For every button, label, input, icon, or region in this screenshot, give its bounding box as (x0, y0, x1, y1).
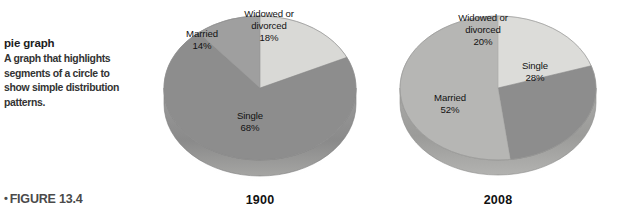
slice-value-single: 68% (218, 122, 282, 134)
slice-label-married: Married 52% (415, 92, 485, 116)
slice-value-single: 28% (503, 72, 567, 84)
glossary-definition-line-4: patterns. (4, 95, 143, 110)
slice-value-married: 14% (170, 40, 234, 52)
bullet-icon: • (4, 192, 8, 204)
slice-label-single: Single 68% (218, 110, 282, 134)
pie-chart-1900-title: 1900 (160, 193, 360, 207)
slice-label-widowed-divorced-line2: divorced (465, 24, 500, 35)
slice-label-single: Single 28% (503, 60, 567, 84)
figure-number-label: •FIGURE 13.4 (4, 192, 82, 206)
glossary-definition-line-2: segments of a circle to (4, 66, 143, 81)
slice-value-widowed-divorced: 18% (226, 32, 312, 44)
figure-number-text: FIGURE 13.4 (10, 192, 83, 206)
slice-value-married: 52% (415, 104, 485, 116)
slice-value-widowed-divorced: 20% (436, 36, 530, 48)
glossary-definition-line-3: show simple distribution (4, 80, 143, 95)
margin-column: pie graph A graph that highlights segmen… (4, 0, 154, 223)
pie-chart-2008: Widowed or divorced 20% Single 28% Marri… (393, 0, 603, 223)
slice-label-widowed-divorced-line2: divorced (251, 20, 286, 31)
slice-label-widowed-divorced: Widowed or divorced 18% (226, 8, 312, 45)
slice-label-single-text: Single (522, 60, 548, 71)
slice-label-married-text: Married (434, 92, 466, 103)
glossary-term: pie graph (4, 36, 150, 50)
slice-label-widowed-divorced-line1: Widowed or (458, 12, 508, 23)
slice-label-married-text: Married (186, 28, 218, 39)
slice-label-single-text: Single (237, 110, 263, 121)
pie-chart-2008-title: 2008 (393, 193, 603, 207)
pie-chart-1900: Widowed or divorced 18% Married 14% Sing… (160, 0, 360, 223)
slice-label-widowed-divorced-line1: Widowed or (244, 8, 294, 19)
glossary-definition-line-1: A graph that highlights (4, 51, 143, 66)
glossary-term-block: pie graph A graph that highlights segmen… (4, 36, 150, 109)
slice-label-widowed-divorced: Widowed or divorced 20% (436, 12, 530, 49)
slice-label-married: Married 14% (170, 28, 234, 52)
